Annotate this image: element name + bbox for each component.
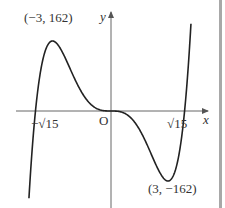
origin-label: O xyxy=(99,114,108,127)
cubic-quintic-graph xyxy=(0,0,225,208)
pos-root-label: √15 xyxy=(167,117,187,130)
max-point-label: (−3, 162) xyxy=(24,11,73,24)
right-border xyxy=(219,0,222,208)
min-point-label: (3, −162) xyxy=(148,182,197,195)
x-axis-label: x xyxy=(203,113,209,126)
neg-root-label: −√15 xyxy=(31,117,58,130)
y-axis-label: y xyxy=(100,10,106,23)
